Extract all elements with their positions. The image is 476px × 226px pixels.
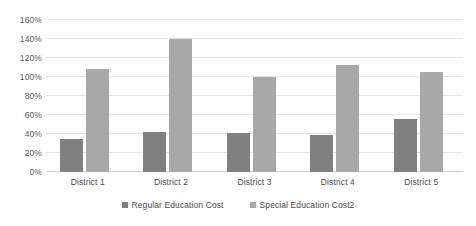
y-axis-tick-label: 100% xyxy=(0,72,42,82)
y-axis-tick-label: 120% xyxy=(0,53,42,63)
bar xyxy=(420,72,443,172)
chart-legend: Regular Education CostSpecial Education … xyxy=(0,200,476,210)
y-axis-tick-label: 40% xyxy=(0,129,42,139)
y-axis-tick-label: 20% xyxy=(0,148,42,158)
legend-swatch-icon xyxy=(250,202,256,208)
y-axis: 0%20%40%60%80%100%120%140%160% xyxy=(0,20,42,172)
legend-item[interactable]: Special Education Cost2 xyxy=(250,200,355,210)
bar-group xyxy=(46,20,129,172)
y-axis-tick-label: 160% xyxy=(0,15,42,25)
bar xyxy=(169,39,192,172)
x-axis: District 1District 2District 3District 4… xyxy=(46,177,463,191)
y-axis-tick-label: 140% xyxy=(0,34,42,44)
x-axis-tick-label: District 1 xyxy=(46,177,129,187)
legend-swatch-icon xyxy=(122,202,128,208)
bar xyxy=(253,77,276,172)
bar-group xyxy=(380,20,463,172)
legend-label: Special Education Cost2 xyxy=(260,200,355,210)
legend-label: Regular Education Cost xyxy=(132,200,224,210)
x-axis-tick-label: District 3 xyxy=(213,177,296,187)
y-axis-tick-label: 60% xyxy=(0,110,42,120)
bar-group xyxy=(213,20,296,172)
bar xyxy=(310,135,333,172)
bar xyxy=(60,139,83,172)
y-axis-tick-label: 80% xyxy=(0,91,42,101)
bar xyxy=(227,133,250,172)
y-axis-tick-label: 0% xyxy=(0,167,42,177)
bar-chart: 0%20%40%60%80%100%120%140%160% District … xyxy=(0,0,476,226)
bar-group xyxy=(129,20,212,172)
bar-group xyxy=(296,20,379,172)
bar xyxy=(86,69,109,172)
x-axis-tick-label: District 5 xyxy=(380,177,463,187)
bar xyxy=(143,132,166,172)
bars-layer xyxy=(46,20,463,172)
bar xyxy=(336,65,359,172)
legend-item[interactable]: Regular Education Cost xyxy=(122,200,224,210)
x-axis-tick-label: District 4 xyxy=(296,177,379,187)
bar xyxy=(394,119,417,172)
x-axis-tick-label: District 2 xyxy=(129,177,212,187)
